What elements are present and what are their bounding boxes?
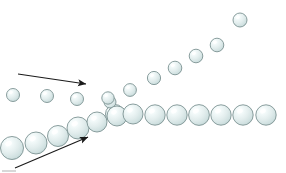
sphere-body bbox=[189, 49, 203, 63]
sphere bbox=[147, 71, 160, 84]
sphere bbox=[210, 38, 224, 52]
sphere bbox=[1, 137, 24, 160]
sphere bbox=[145, 105, 165, 125]
sphere bbox=[41, 90, 54, 103]
sphere-body bbox=[71, 93, 84, 106]
sphere bbox=[48, 126, 69, 147]
figure-root: Particle stream convergence and splittin… bbox=[0, 0, 286, 173]
sphere-body bbox=[145, 105, 165, 125]
sphere-body bbox=[123, 104, 143, 124]
particle-stream-diagram bbox=[0, 0, 286, 173]
sphere-body bbox=[189, 105, 210, 126]
sphere-body bbox=[167, 105, 187, 125]
sphere-body bbox=[25, 132, 47, 154]
sphere bbox=[233, 105, 253, 125]
sphere bbox=[189, 49, 203, 63]
sphere bbox=[189, 105, 210, 126]
sphere-body bbox=[211, 105, 231, 125]
sphere bbox=[87, 112, 107, 132]
sphere-body bbox=[1, 137, 24, 160]
sphere-body bbox=[233, 105, 253, 125]
sphere bbox=[211, 105, 231, 125]
sphere-body bbox=[210, 38, 224, 52]
sphere-body bbox=[168, 61, 182, 75]
sphere bbox=[168, 61, 182, 75]
sphere-body bbox=[256, 105, 276, 125]
sphere-body bbox=[124, 84, 137, 97]
sphere-body bbox=[233, 13, 247, 27]
sphere bbox=[25, 132, 47, 154]
sphere-body bbox=[7, 89, 20, 102]
sphere bbox=[71, 93, 84, 106]
sphere-body bbox=[41, 90, 54, 103]
sphere-body bbox=[48, 126, 69, 147]
sphere bbox=[233, 13, 247, 27]
sphere-body bbox=[102, 92, 114, 104]
sphere bbox=[67, 117, 89, 139]
sphere bbox=[102, 92, 114, 104]
sphere bbox=[123, 104, 143, 124]
sphere-body bbox=[147, 71, 160, 84]
sphere-body bbox=[87, 112, 107, 132]
sphere-body bbox=[67, 117, 89, 139]
sphere bbox=[7, 89, 20, 102]
sphere bbox=[167, 105, 187, 125]
sphere bbox=[124, 84, 137, 97]
sphere bbox=[256, 105, 276, 125]
